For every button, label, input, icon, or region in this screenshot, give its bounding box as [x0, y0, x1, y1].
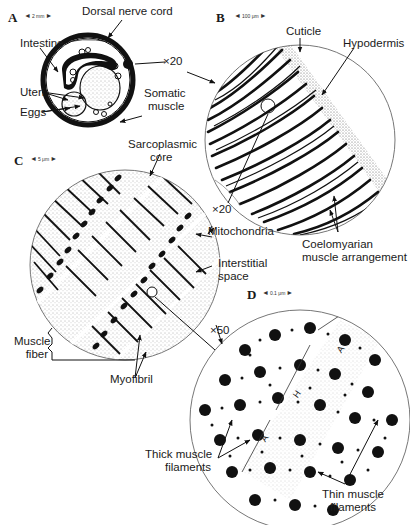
label-thin-filaments-1: Thin muscle: [318, 488, 388, 501]
label-mitochondria: Mitochondria: [208, 225, 274, 238]
panel-label-d: D: [247, 287, 256, 303]
panel-b-muscle-arrangement: [205, 30, 395, 236]
label-eggs: Eggs: [20, 106, 46, 119]
panel-label-a: A: [8, 10, 17, 26]
label-muscle-fiber-2: fiber: [14, 348, 48, 361]
label-intestine: Intestine: [20, 37, 63, 50]
label-uteri: Uteri: [20, 86, 44, 99]
scale-bar-b: ◄100 μm►: [234, 13, 267, 19]
label-coelomyarian-1: Coelomyarian: [302, 238, 373, 251]
label-sarcoplasmic-core-1: Sarcoplasmic: [128, 138, 197, 151]
scale-bar-a: ◄2 mm►: [24, 13, 52, 19]
scale-bar-d-text: 0.1 μm: [270, 290, 285, 296]
label-cuticle: Cuticle: [286, 25, 321, 38]
label-thick-filaments-1: Thick muscle: [145, 448, 211, 461]
label-thin-filaments-2: filaments: [318, 501, 388, 514]
label-interstitial-2: space: [218, 270, 249, 283]
magnification-a-to-b: ×20: [163, 55, 183, 67]
label-muscle-fiber-1: Muscle: [14, 335, 48, 348]
label-somatic-muscle-1: Somatic: [144, 87, 186, 100]
scale-bar-c-text: 5 μm: [38, 156, 49, 162]
magnification-b-to-c: ×20: [212, 203, 232, 215]
label-dorsal-nerve-cord: Dorsal nerve cord: [82, 5, 173, 18]
panel-label-b: B: [216, 10, 225, 26]
scale-bar-d: ◄0.1 μm►: [262, 290, 293, 296]
label-somatic-muscle-2: muscle: [148, 100, 184, 113]
label-hypodermis: Hypodermis: [343, 37, 404, 50]
scale-bar-b-text: 100 μm: [242, 13, 259, 19]
scale-bar-a-text: 2 mm: [32, 13, 45, 19]
label-coelomyarian-2: muscle arrangement: [302, 251, 407, 264]
scale-bar-c: ◄5 μm►: [30, 156, 57, 162]
panel-label-c: C: [14, 153, 23, 169]
label-myofibril: Myofibril: [110, 373, 153, 386]
label-interstitial-1: Interstitial: [218, 257, 267, 270]
magnification-c-to-d: ×50: [210, 324, 230, 336]
label-sarcoplasmic-core-2: core: [150, 151, 172, 164]
label-thick-filaments-2: filaments: [145, 461, 211, 474]
